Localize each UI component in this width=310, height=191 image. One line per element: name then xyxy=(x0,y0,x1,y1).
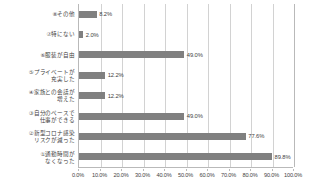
x-axis-tick xyxy=(272,169,273,171)
bar-row: 77.6% xyxy=(79,126,293,146)
bar-row: 12.2% xyxy=(79,65,293,85)
x-axis-tick xyxy=(78,169,79,171)
category-label: ③自分のペースで 仕事ができる xyxy=(0,107,78,128)
category-axis-labels: ⑧その他⑦特にない⑥服装が自由⑤プライベートが 充実した④家族との会話が 増えた… xyxy=(0,4,78,168)
bar-value-label: 12.2% xyxy=(108,72,124,78)
x-axis-tick xyxy=(250,169,251,171)
category-label: ⑤プライベートが 充実した xyxy=(0,66,78,87)
bar-row: 49.0% xyxy=(79,45,293,65)
bar xyxy=(79,31,83,38)
bar-row: 49.0% xyxy=(79,106,293,126)
gridline xyxy=(294,4,295,167)
bar xyxy=(79,51,184,58)
category-label: ⑧その他 xyxy=(0,4,78,25)
x-axis-tick-label: 40.0% xyxy=(156,172,171,178)
bar-row: 8.2% xyxy=(79,4,293,24)
bar-value-label: 2.0% xyxy=(86,32,99,38)
bar xyxy=(79,11,97,18)
bar-chart: ⑧その他⑦特にない⑥服装が自由⑤プライベートが 充実した④家族との会話が 増えた… xyxy=(0,0,310,191)
x-axis-tick-label: 100.0% xyxy=(284,172,302,178)
bar-row: 12.2% xyxy=(79,86,293,106)
bar-value-label: 8.2% xyxy=(99,11,112,17)
x-axis-tick xyxy=(100,169,101,171)
bar-value-label: 12.2% xyxy=(108,93,124,99)
category-label: ⑦特にない xyxy=(0,25,78,46)
category-label: ⑥服装が自由 xyxy=(0,45,78,66)
bar-rows: 8.2%2.0%49.0%12.2%12.2%49.0%77.6%89.8% xyxy=(79,4,293,167)
x-axis-tick xyxy=(207,169,208,171)
bar-row: 89.8% xyxy=(79,147,293,167)
x-axis-tick xyxy=(229,169,230,171)
category-label: ②新型コロナ感染 リスクが減った xyxy=(0,127,78,148)
bar xyxy=(79,133,246,140)
category-label: ④家族との会話が 増えた xyxy=(0,86,78,107)
bar-value-label: 89.8% xyxy=(275,154,291,160)
x-axis: 0.0%10.0%20.0%30.0%40.0%50.0%60.0%70.0%8… xyxy=(78,169,293,183)
x-axis-tick-label: 0.0% xyxy=(72,172,84,178)
bar xyxy=(79,113,184,120)
x-axis-tick xyxy=(143,169,144,171)
x-axis-tick-label: 70.0% xyxy=(221,172,236,178)
x-axis-tick-label: 80.0% xyxy=(242,172,257,178)
x-axis-tick-label: 30.0% xyxy=(135,172,150,178)
bar xyxy=(79,153,272,160)
x-axis-tick xyxy=(121,169,122,171)
bar-value-label: 77.6% xyxy=(248,133,264,139)
bar-value-label: 49.0% xyxy=(187,52,203,58)
x-axis-tick-label: 20.0% xyxy=(113,172,128,178)
bar-row: 2.0% xyxy=(79,24,293,44)
x-axis-tick xyxy=(186,169,187,171)
category-label: ①通勤時間が なくなった xyxy=(0,148,78,169)
x-axis-tick xyxy=(164,169,165,171)
bar-value-label: 49.0% xyxy=(187,113,203,119)
bar xyxy=(79,92,105,99)
bar xyxy=(79,72,105,79)
x-axis-tick-label: 90.0% xyxy=(264,172,279,178)
x-axis-tick xyxy=(293,169,294,171)
x-axis-tick-label: 50.0% xyxy=(178,172,193,178)
x-axis-tick-label: 10.0% xyxy=(92,172,107,178)
plot-area: 8.2%2.0%49.0%12.2%12.2%49.0%77.6%89.8% xyxy=(78,4,293,168)
x-axis-tick-label: 60.0% xyxy=(199,172,214,178)
